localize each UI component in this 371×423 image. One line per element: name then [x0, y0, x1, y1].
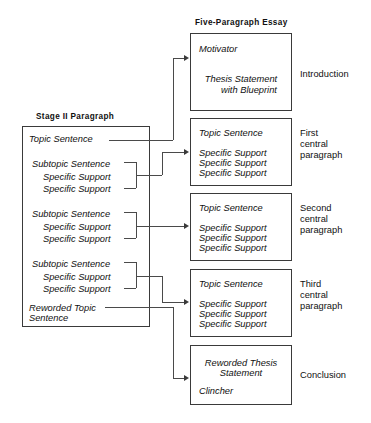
- connector-third-v: [162, 276, 163, 302]
- diagram-canvas: Five-Paragraph Essay Stage II Paragraph …: [0, 0, 371, 423]
- label-third-central-2: central: [300, 290, 328, 302]
- second-topic-sentence: Topic Sentence: [199, 203, 263, 214]
- intro-thesis-line1: Thesis Statement: [190, 74, 292, 85]
- connector-second-h: [136, 226, 185, 227]
- connector-first-h1: [136, 175, 162, 176]
- conclusion-thesis-line2: Statement: [190, 368, 292, 379]
- intro-thesis-line2: with Blueprint: [198, 85, 300, 96]
- stage-support-3-2: Specific Support: [43, 284, 111, 295]
- arrow-second-central-icon: [184, 223, 189, 229]
- label-third-central-1: Third: [300, 279, 321, 291]
- third-support-3: Specific Support: [199, 319, 267, 330]
- third-topic-sentence: Topic Sentence: [199, 279, 263, 290]
- bracket-2-top: [124, 212, 136, 213]
- bracket-2-spine: [136, 212, 137, 238]
- conclusion-clincher: Clincher: [199, 386, 233, 397]
- bracket-3-spine: [136, 262, 137, 288]
- label-second-central-1: Second: [300, 203, 332, 215]
- stage-subtopic-1: Subtopic Sentence: [32, 159, 110, 170]
- label-first-central-3: paragraph: [300, 150, 342, 162]
- label-first-central-1: First: [300, 128, 318, 140]
- connector-conclusion-h1: [105, 307, 173, 308]
- label-first-central-2: central: [300, 139, 328, 151]
- stage-support-1-2: Specific Support: [43, 184, 111, 195]
- stage-support-3-1: Specific Support: [43, 272, 111, 283]
- bracket-3-bottom: [124, 288, 136, 289]
- stage-subtopic-3: Subtopic Sentence: [32, 259, 110, 270]
- bracket-1-top: [124, 162, 136, 163]
- connector-third-h1: [136, 276, 162, 277]
- connector-conclusion-v: [173, 307, 174, 378]
- connector-third-h2: [162, 302, 185, 303]
- first-support-3: Specific Support: [199, 168, 267, 179]
- essay-title: Five-Paragraph Essay: [195, 18, 288, 27]
- intro-motivator: Motivator: [199, 44, 237, 55]
- label-second-central-3: paragraph: [300, 225, 342, 237]
- first-topic-sentence: Topic Sentence: [199, 128, 263, 139]
- stage-subtopic-2: Subtopic Sentence: [32, 209, 110, 220]
- label-second-central-2: central: [300, 214, 328, 226]
- stage-topic-sentence: Topic Sentence: [29, 134, 93, 145]
- label-introduction: Introduction: [300, 69, 349, 81]
- stage-support-2-1: Specific Support: [43, 222, 111, 233]
- connector-first-h2: [162, 152, 185, 153]
- stage-support-1-1: Specific Support: [43, 172, 111, 183]
- arrow-conclusion-icon: [184, 375, 189, 381]
- arrow-first-central-icon: [184, 149, 189, 155]
- label-conclusion: Conclusion: [300, 370, 346, 382]
- bracket-2-bottom: [124, 238, 136, 239]
- label-third-central-3: paragraph: [300, 301, 342, 313]
- stage-support-2-2: Specific Support: [43, 234, 111, 245]
- connector-first-v: [162, 152, 163, 175]
- arrow-introduction-icon: [184, 55, 189, 61]
- second-support-3: Specific Support: [199, 243, 267, 254]
- arrow-third-central-icon: [184, 299, 189, 305]
- stage-paragraph-title: Stage II Paragraph: [36, 112, 114, 121]
- stage-reworded-topic-line2: Sentence: [29, 313, 68, 324]
- bracket-1-bottom: [124, 188, 136, 189]
- connector-intro-v: [173, 58, 174, 140]
- connector-intro-h1: [109, 140, 173, 141]
- bracket-3-top: [124, 262, 136, 263]
